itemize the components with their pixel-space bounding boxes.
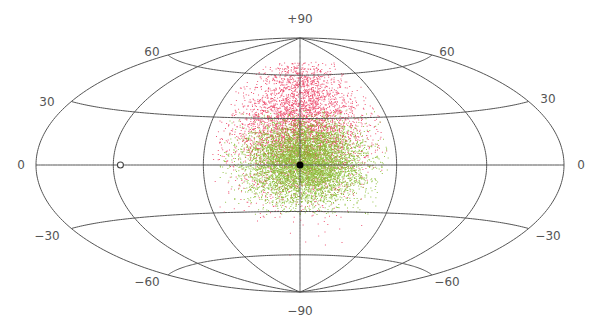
latitude-label: −60 [134,275,159,289]
open-circle-icon [117,162,123,168]
latitude-label: 30 [540,92,555,106]
center-dot-icon [297,162,304,169]
latitude-label: +90 [287,12,312,26]
latitude-label: −90 [287,304,312,318]
latitude-label: −30 [535,229,560,243]
latitude-label: −60 [434,275,459,289]
latitude-label: 60 [439,45,454,59]
scatter-points [212,62,388,256]
latitude-label: 60 [144,45,159,59]
latitude-label: 30 [39,95,54,109]
latitude-label: 0 [577,158,585,172]
latitude-label: 0 [17,158,25,172]
all-sky-map: +906060303000−30−30−60−60−90 [0,0,598,327]
latitude-label: −30 [34,229,59,243]
